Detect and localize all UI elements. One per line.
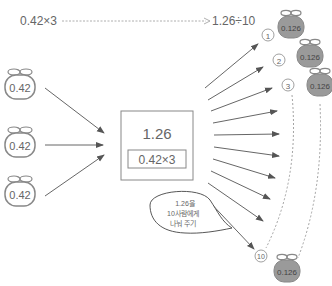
center-value: 1.26 [142, 125, 171, 142]
arrow-in-1 [45, 88, 104, 133]
right-bag-1-label: 0.126 [281, 24, 302, 33]
left-bag-3: 0.42 [5, 176, 35, 206]
bubble-line-3: 나눠 주기 [170, 219, 196, 228]
svg-text:2: 2 [277, 57, 282, 66]
left-bag-2: 0.42 [5, 127, 35, 157]
marker-3: 3 [282, 79, 294, 91]
marker-2: 2 [273, 54, 285, 66]
bubble-line-2: 10사람에게 [167, 209, 199, 218]
arrow-out-6 [214, 147, 279, 156]
arrow-out-7 [213, 159, 275, 178]
connector-arrowhead-icon [204, 18, 210, 24]
right-bag-10-label: 0.126 [277, 268, 298, 277]
left-bag-1: 0.42 [5, 69, 35, 99]
right-bag-3-label: 0.126 [310, 82, 331, 91]
center-box [121, 111, 193, 180]
right-bag-2: 0.126 [297, 39, 323, 67]
left-bag-3-label: 0.42 [9, 189, 30, 201]
dashed-arc-bags [298, 104, 321, 258]
arrow-out-4 [213, 111, 277, 123]
right-bag-3: 0.126 [307, 68, 332, 96]
marker-10: 10 [255, 250, 267, 262]
marker-1: 1 [262, 29, 274, 41]
right-bag-2-label: 0.126 [300, 53, 321, 62]
arrow-out-5 [214, 134, 279, 135]
arrow-out-8 [211, 171, 270, 199]
arrow-out-1 [205, 44, 258, 88]
right-bag-10: 0.126 [274, 254, 300, 282]
arrow-in-3 [45, 155, 104, 196]
top-right-expression: 1.26÷10 [212, 14, 256, 28]
svg-text:1: 1 [266, 32, 271, 41]
arrow-out-3 [211, 88, 272, 111]
left-bag-1-label: 0.42 [9, 82, 30, 94]
dashed-arc-markers [266, 95, 294, 248]
svg-text:3: 3 [286, 82, 291, 91]
right-bag-1: 0.126 [278, 10, 304, 38]
top-left-expression: 0.42×3 [20, 14, 57, 28]
diagram-canvas: 0.42×3 1.26÷10 0.42 0.42 0.42 1.26 0.42×… [0, 0, 332, 286]
bubble-line-1: 1.26을 [175, 200, 196, 207]
center-expression: 0.42×3 [138, 153, 175, 167]
left-bag-2-label: 0.42 [9, 140, 30, 152]
svg-text:10: 10 [257, 253, 265, 260]
arrow-out-2 [208, 67, 263, 100]
